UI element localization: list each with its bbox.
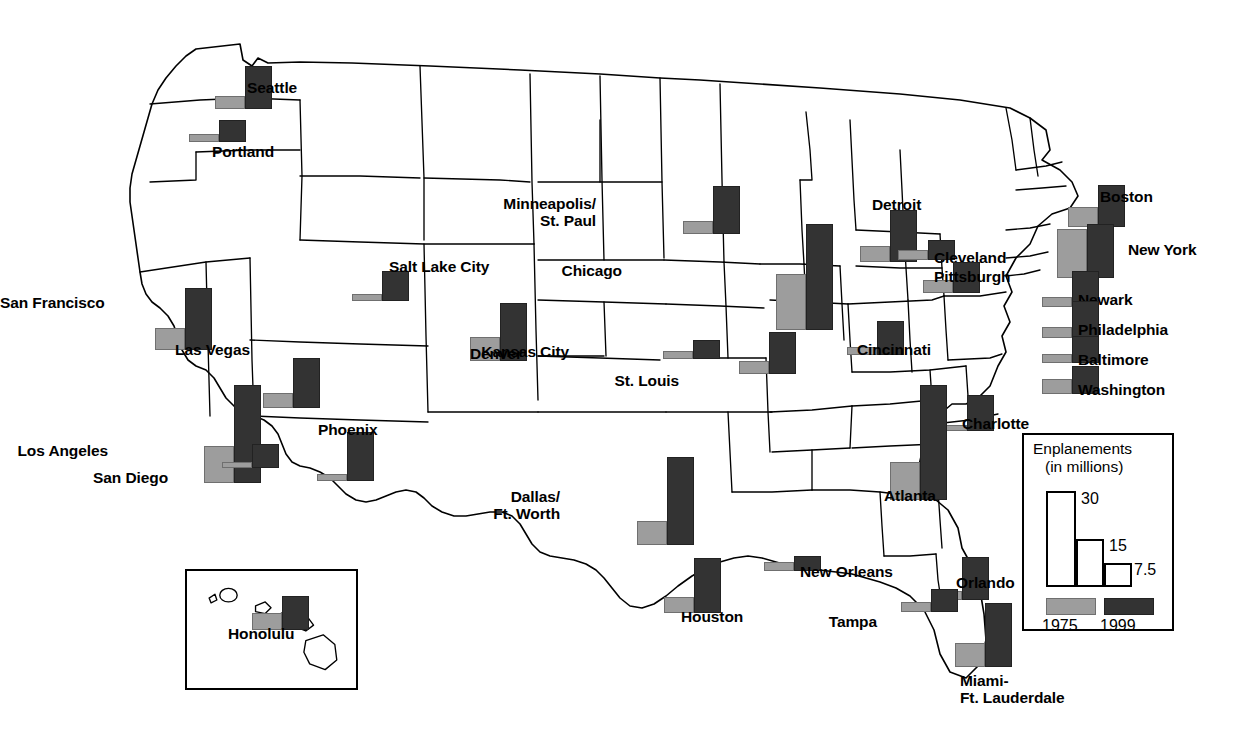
legend: Enplanements(in millions) 30 15 7.5 1975… (1022, 433, 1174, 631)
city-label: San Francisco (0, 294, 78, 311)
bar-pair (776, 224, 833, 330)
bar-1975 (683, 221, 713, 234)
bar-1975 (860, 246, 890, 262)
legend-value-15: 15 (1109, 537, 1127, 555)
city-label: Honolulu (228, 625, 294, 642)
city-label: Cincinnati (857, 341, 931, 358)
city-marker (890, 385, 947, 500)
bar-1975 (898, 250, 928, 260)
bar-pair (317, 432, 374, 481)
bar-1975 (663, 351, 693, 359)
city-marker (739, 332, 796, 374)
city-marker (637, 457, 694, 545)
bar-pair (901, 589, 958, 612)
bar-1999 (931, 589, 958, 612)
bar-1975 (352, 294, 382, 301)
legend-label-1975: 1975 (1042, 617, 1078, 635)
legend-value-30: 30 (1081, 490, 1099, 508)
bar-1999 (693, 340, 720, 359)
city-marker (317, 432, 374, 481)
city-marker (663, 340, 720, 359)
bar-1975 (189, 134, 219, 141)
bar-1999 (694, 558, 721, 613)
bar-1999 (806, 224, 833, 330)
city-label: Atlanta (884, 487, 936, 504)
city-marker (955, 603, 1012, 667)
bar-pair (890, 385, 947, 500)
city-label: Detroit (872, 196, 921, 213)
city-marker (901, 589, 958, 612)
city-label: Dallas/ Ft. Worth (0, 488, 560, 523)
bar-pair (637, 457, 694, 545)
bar-1975 (955, 643, 985, 667)
enplanements-map: Enplanements(in millions) 30 15 7.5 1975… (0, 0, 1241, 743)
city-label: Los Angeles (0, 442, 108, 459)
legend-bar-30 (1046, 491, 1076, 587)
city-marker (222, 444, 279, 468)
bar-1975 (1042, 379, 1072, 394)
bar-1975 (1042, 354, 1072, 364)
bar-1975 (263, 393, 293, 408)
city-label: Tampa (0, 613, 877, 630)
bar-1999 (219, 120, 246, 142)
city-label: Kansas City (0, 343, 569, 360)
city-marker (664, 558, 721, 613)
city-label: Seattle (247, 79, 297, 96)
city-label: Chicago (0, 262, 622, 279)
bar-pair (683, 186, 740, 234)
city-label: San Diego (0, 469, 168, 486)
bar-pair (664, 558, 721, 613)
city-label: Pittsburgh (934, 268, 1011, 285)
bar-1999 (985, 603, 1012, 667)
city-label: Charlotte (962, 415, 1029, 432)
city-marker (683, 186, 740, 234)
bar-1975 (222, 462, 252, 468)
city-marker (189, 120, 246, 142)
legend-bar-7.5 (1104, 563, 1132, 587)
bar-1975 (317, 474, 347, 481)
city-label: New York (1128, 241, 1196, 258)
city-label: Boston (1100, 188, 1153, 205)
bar-1975 (215, 96, 245, 109)
bar-pair (204, 385, 261, 483)
bar-1999 (347, 432, 374, 481)
bar-1975 (764, 562, 794, 572)
bar-1999 (920, 385, 947, 500)
bar-pair (663, 340, 720, 359)
bar-1975 (776, 274, 806, 330)
legend-bar-15 (1076, 539, 1104, 587)
city-label: Minneapolis/ St. Paul (0, 195, 596, 230)
bar-1975 (739, 361, 769, 374)
bar-pair (955, 603, 1012, 667)
bar-pair (222, 444, 279, 468)
city-label: Phoenix (318, 421, 378, 438)
legend-label-1999: 1999 (1100, 617, 1136, 635)
bar-1999 (713, 186, 740, 234)
legend-value-7.5: 7.5 (1134, 561, 1156, 579)
bar-pair (189, 120, 246, 142)
city-marker (776, 224, 833, 330)
bar-pair (739, 332, 796, 374)
bar-1999 (769, 332, 796, 374)
city-label: New Orleans (800, 563, 893, 580)
bar-1999 (667, 457, 694, 545)
city-marker (204, 385, 261, 483)
legend-title: Enplanements(in millions) (1033, 440, 1132, 476)
city-label: Washington (1078, 381, 1165, 398)
city-label: Portland (212, 143, 274, 160)
city-label: Orlando (956, 574, 1015, 591)
city-label: St. Louis (0, 372, 679, 389)
city-label: Miami- Ft. Lauderdale (960, 672, 1065, 707)
legend-swatch-1999 (1104, 598, 1154, 615)
bar-1999 (234, 385, 261, 483)
bar-1975 (637, 521, 667, 545)
bar-1999 (252, 444, 279, 468)
legend-swatch-1975 (1046, 598, 1096, 615)
bar-1975 (901, 602, 931, 612)
